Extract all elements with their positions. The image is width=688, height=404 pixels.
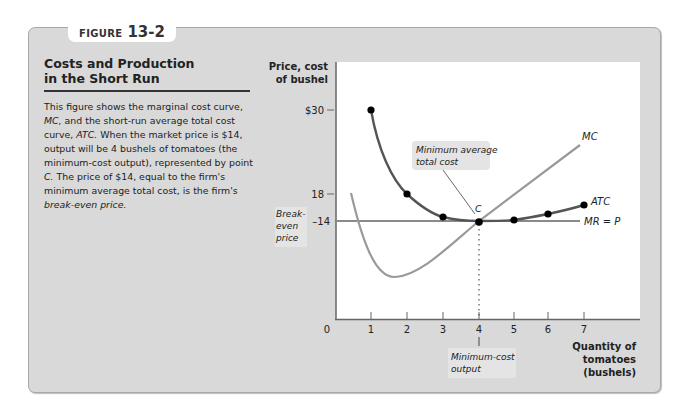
breakeven-label-3: price (275, 233, 299, 243)
svg-text:3: 3 (440, 324, 446, 335)
atc-point-7 (580, 201, 587, 208)
atc-point-3 (439, 213, 446, 220)
x-tick-labels: 0 1 2 3 4 5 6 7 (324, 324, 587, 335)
svg-text:5: 5 (511, 324, 517, 335)
point-c-label: C (475, 203, 482, 214)
point-c (475, 218, 483, 226)
mc-label: MC (582, 131, 598, 142)
svg-text:7: 7 (581, 324, 587, 335)
x-axis-title-1: Quantity of (572, 341, 636, 352)
plot-area (336, 62, 640, 319)
atc-point-2 (403, 190, 410, 197)
svg-text:6: 6 (545, 324, 551, 335)
mr-label: MR = P (584, 216, 621, 227)
min-atc-label-2: total cost (416, 157, 459, 167)
x-axis-title-2: tomatoes (583, 354, 636, 365)
svg-text:0: 0 (324, 324, 330, 335)
y-axis-title-1: Price, cost (269, 61, 328, 72)
x-axis-title-3: (bushels) (583, 367, 636, 378)
y-tick-label-14: –14 (312, 216, 330, 227)
atc-point-6 (544, 210, 551, 217)
svg-text:2: 2 (404, 324, 410, 335)
atc-point-5 (510, 216, 517, 223)
atc-point-1 (367, 106, 374, 113)
y-axis-title-2: of bushel (276, 74, 328, 85)
min-output-label-2: output (451, 364, 481, 374)
min-output-label-1: Minimum-cost (451, 352, 515, 362)
y-tick-label-18: 18 (311, 189, 324, 200)
breakeven-label-2: even (276, 221, 298, 231)
y-tick-label-30: $30 (305, 105, 324, 116)
cost-chart: Minimum average total cost C MC ATC MR =… (0, 0, 688, 404)
min-atc-label-1: Minimum average (416, 145, 498, 155)
svg-text:1: 1 (368, 324, 374, 335)
svg-text:4: 4 (476, 324, 482, 335)
atc-label: ATC (590, 196, 610, 207)
breakeven-label-1: Break- (276, 209, 305, 219)
